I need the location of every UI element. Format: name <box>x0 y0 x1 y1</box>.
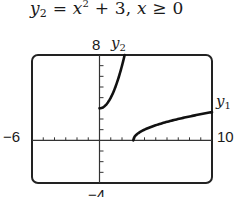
ymin-label: −4 <box>88 186 105 197</box>
curve-y2 <box>100 55 125 108</box>
curve-y1 <box>133 112 212 140</box>
graph-window <box>0 0 241 197</box>
y1-curve-label: y1 <box>216 92 231 111</box>
ymax-label: 8 <box>92 36 100 53</box>
curves <box>100 55 213 140</box>
y2-curve-label: y2 <box>111 34 126 53</box>
window-frame <box>32 55 212 183</box>
axes <box>32 55 212 183</box>
xmin-label: −6 <box>3 128 20 145</box>
xmax-label: 10 <box>217 128 234 145</box>
